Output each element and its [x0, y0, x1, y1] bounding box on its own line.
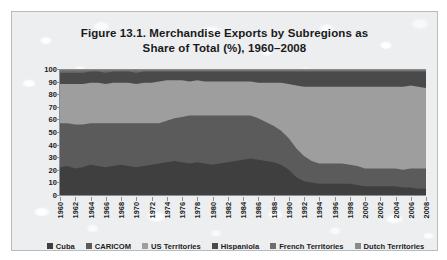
legend-label: CARICOM — [95, 242, 131, 251]
figure-title-line-2: Share of Total (%), 1960–2008 — [42, 41, 407, 56]
x-axis-tick-mark — [396, 197, 397, 201]
x-axis-tick-label: 1994 — [315, 202, 324, 218]
x-axis-tick-label: 1970 — [132, 202, 141, 218]
legend-swatch — [47, 243, 53, 249]
legend-item: French Territories — [270, 242, 343, 251]
x-axis-tick-label: 1980 — [209, 202, 218, 218]
x-axis-tick-label: 1984 — [239, 202, 248, 218]
legend-swatch — [142, 243, 148, 249]
x-axis-tick-label: 1960 — [56, 202, 65, 218]
x-axis-tick-mark — [197, 197, 198, 201]
x-axis-tick-mark — [60, 197, 61, 201]
x-axis-tick-label: 2008 — [422, 202, 431, 218]
x-axis-tick-label: 1966 — [102, 202, 111, 218]
x-axis-tick-mark — [136, 197, 137, 201]
x-axis-tick-mark — [304, 197, 305, 201]
x-axis-tick-label: 2002 — [376, 202, 385, 218]
legend-item: Cuba — [47, 242, 75, 251]
x-axis-tick-mark — [228, 197, 229, 201]
x-axis-tick-mark — [182, 197, 183, 201]
legend-label: French Territories — [279, 242, 343, 251]
x-axis-tick-mark — [365, 197, 366, 201]
x-axis-tick-mark — [243, 197, 244, 201]
x-axis-tick-label: 1996 — [331, 202, 340, 218]
legend-label: Hispaniola — [221, 242, 259, 251]
x-axis-tick-label: 1964 — [87, 202, 96, 218]
x-axis-tick-mark — [335, 197, 336, 201]
legend-item: Hispaniola — [212, 242, 259, 251]
x-axis-tick-mark — [121, 197, 122, 201]
legend-item: Dutch Territories — [355, 242, 425, 251]
x-axis-tick-mark — [75, 197, 76, 201]
x-axis-tick-mark — [274, 197, 275, 201]
x-axis-tick-mark — [258, 197, 259, 201]
legend-item: US Territories — [142, 242, 201, 251]
legend-item: CARICOM — [86, 242, 131, 251]
x-axis-tick-label: 1998 — [346, 202, 355, 218]
figure-title-line-1: Figure 13.1. Merchandise Exports by Subr… — [42, 26, 407, 41]
x-axis-tick-label: 2000 — [361, 202, 370, 218]
legend-label: Dutch Territories — [364, 242, 425, 251]
legend-swatch — [212, 243, 218, 249]
x-axis-tick-label: 1992 — [300, 202, 309, 218]
x-axis-tick-label: 1972 — [148, 202, 157, 218]
x-axis-tick-label: 1974 — [163, 202, 172, 218]
stacked-area-chart — [60, 69, 426, 195]
x-axis-tick-label: 1978 — [193, 202, 202, 218]
chart-legend: CubaCARICOMUS TerritoriesHispaniolaFrenc… — [25, 238, 438, 251]
plot-area-wrapper: 1009080706050403020100 19601962196419661… — [39, 69, 425, 251]
x-axis-tick-label: 2006 — [407, 202, 416, 218]
legend-label: US Territories — [151, 242, 201, 251]
figure-frame: Figure 13.1. Merchandise Exports by Subr… — [11, 11, 438, 251]
legend-swatch — [270, 243, 276, 249]
plot-area — [59, 69, 426, 196]
x-axis-tick-mark — [411, 197, 412, 201]
x-axis-tick-mark — [289, 197, 290, 201]
legend-swatch — [355, 243, 361, 249]
x-axis-tick-label: 2004 — [392, 202, 401, 218]
figure-title: Figure 13.1. Merchandise Exports by Subr… — [42, 26, 407, 56]
x-axis-tick-label: 1990 — [285, 202, 294, 218]
legend-label: Cuba — [56, 242, 75, 251]
figure-container: Figure 13.1. Merchandise Exports by Subr… — [0, 0, 447, 260]
x-axis-tick-mark — [380, 197, 381, 201]
x-axis-tick-label: 1986 — [254, 202, 263, 218]
x-axis-tick-mark — [167, 197, 168, 201]
x-axis-tick-label: 1988 — [270, 202, 279, 218]
x-axis-tick-mark — [91, 197, 92, 201]
legend-swatch — [86, 243, 92, 249]
x-axis-tick-mark — [319, 197, 320, 201]
x-axis-tick-mark — [152, 197, 153, 201]
x-axis-tick-mark — [106, 197, 107, 201]
x-axis-tick-label: 1976 — [178, 202, 187, 218]
x-axis-tick-mark — [213, 197, 214, 201]
x-axis-tick-label: 1962 — [71, 202, 80, 218]
x-axis-tick-mark — [350, 197, 351, 201]
x-axis-tick-label: 1982 — [224, 202, 233, 218]
x-axis-tick-mark — [426, 197, 427, 201]
x-axis-labels: 1960196219641966196819701972197419761978… — [60, 197, 426, 243]
x-axis-tick-label: 1968 — [117, 202, 126, 218]
